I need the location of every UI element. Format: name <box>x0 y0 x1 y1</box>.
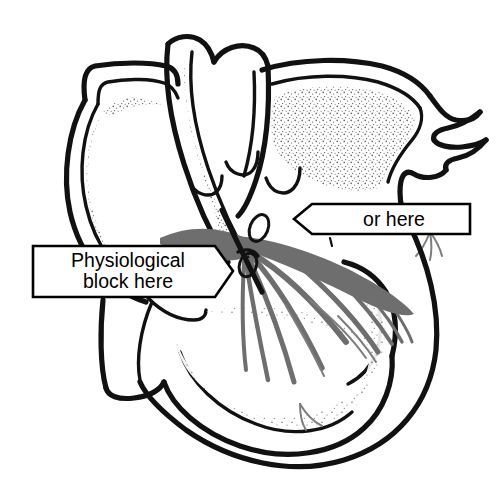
heart-anatomy-illustration: or here Physiological block here <box>0 0 504 503</box>
callout-physiological-block[interactable]: Physiological block here <box>33 246 233 297</box>
callout-or-here-label: or here <box>363 208 425 230</box>
callout-or-here[interactable]: or here <box>294 204 470 234</box>
heart-diagram-figure: or here Physiological block here <box>0 0 504 503</box>
callout-physiological-block-line2: block here <box>83 270 173 292</box>
callout-physiological-block-line1: Physiological <box>71 249 185 271</box>
